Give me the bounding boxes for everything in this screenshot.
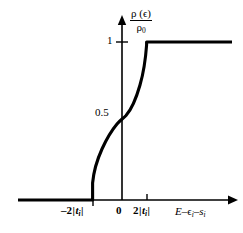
y-axis-title-numerator: ρ (ϵ) — [130, 8, 152, 21]
x-tick-plus-2t-number: 2 — [133, 204, 139, 216]
abs-bar-close-right: | — [147, 204, 150, 216]
y-tick-label-1: 1 — [107, 35, 113, 46]
y-axis-title: ρ (ϵ) ρ0 — [130, 8, 152, 34]
x-tick-label-plus-2t: 2|ti| — [133, 205, 151, 217]
x-axis-arrowhead — [228, 196, 238, 205]
y-axis-arrowhead — [118, 15, 126, 25]
abs-bar-close-left: | — [81, 204, 84, 216]
dos-curve — [18, 42, 232, 200]
y-axis-title-rho-subscript: 0 — [142, 26, 146, 35]
x-tick-label-minus-2t: –2|ti| — [61, 205, 84, 217]
plot-canvas — [0, 0, 243, 233]
x-tick-minus-2t-number: –2 — [61, 204, 72, 216]
figure-container: 1 0.5 –2|ti| 0 2|ti| E–ϵi–si ρ (ϵ) ρ0 — [0, 0, 243, 233]
x-axis-title: E–ϵi–si — [175, 206, 206, 218]
x-axis-title-s-subscript: i — [204, 210, 206, 219]
y-axis-title-denominator: ρ0 — [130, 21, 152, 34]
x-tick-label-zero: 0 — [116, 205, 122, 216]
x-axis-title-E: E — [175, 205, 182, 217]
y-tick-label-0point5: 0.5 — [95, 107, 109, 118]
